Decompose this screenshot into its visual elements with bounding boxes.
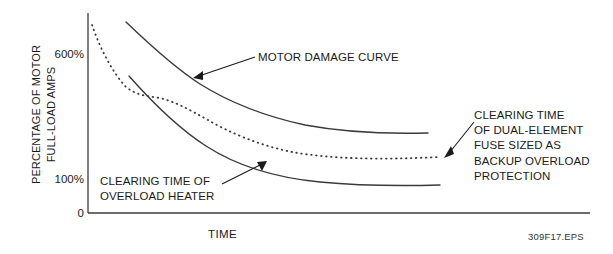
- annotation-motor-damage-curve: MOTOR DAMAGE CURVE: [258, 50, 399, 65]
- figure-container: PERCENTAGE OF MOTOR FULL-LOAD AMPS 600% …: [0, 0, 613, 254]
- leader-overload-heater: [222, 161, 267, 184]
- eps-file-code: 309F17.EPS: [528, 231, 584, 244]
- y-tick-0: 0: [40, 206, 84, 221]
- annotation-dual-element-fuse: CLEARING TIME OF DUAL-ELEMENT FUSE SIZED…: [474, 108, 590, 184]
- y-tick-600: 600%: [40, 47, 84, 62]
- leader-motor-damage: [193, 57, 255, 80]
- leader-dual-element-fuse: [444, 122, 474, 158]
- curve-motor-damage: [126, 22, 428, 133]
- y-tick-100: 100%: [40, 172, 84, 187]
- annotation-overload-heater: CLEARING TIME OF OVERLOAD HEATER: [100, 174, 214, 204]
- curve-overload-heater: [129, 76, 440, 186]
- x-axis-label: TIME: [208, 227, 237, 242]
